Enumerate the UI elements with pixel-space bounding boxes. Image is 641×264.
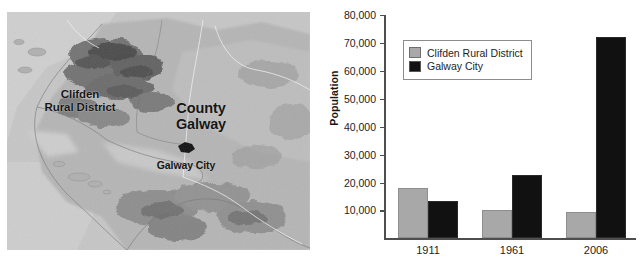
x-axis-line [384, 238, 636, 240]
bar-2006-galway [596, 37, 626, 238]
y-axis-tick-label: 30,000 [344, 149, 376, 161]
y-axis-tick-label: 70,000 [344, 37, 376, 49]
y-axis-tick-label: 40,000 [344, 121, 376, 133]
figure-root: Clifden Rural District County Galway Gal… [0, 0, 641, 264]
chart-legend: Clifden Rural District Galway City [403, 40, 532, 80]
y-axis-tick-label: 50,000 [344, 93, 376, 105]
bar-1961-galway [512, 175, 542, 238]
legend-item-galway-city: Galway City [409, 60, 523, 72]
legend-item-clifden-rural-district: Clifden Rural District [409, 47, 523, 59]
x-axis-label-2006: 2006 [584, 244, 608, 256]
population-bar-chart: Population 10,00020,00030,00040,00050,00… [320, 0, 641, 264]
map-label-county-galway: County Galway [155, 100, 247, 132]
x-axis-label-1911: 1911 [416, 244, 440, 256]
y-axis-tick-label: 60,000 [344, 65, 376, 77]
legend-label-clifden: Clifden Rural District [427, 47, 523, 59]
map-label-galway-city: Galway City [143, 160, 229, 172]
y-axis-tick [380, 43, 385, 44]
y-axis-tick [380, 210, 385, 211]
legend-swatch-icon-clifden [409, 47, 421, 58]
y-axis-tick [380, 127, 385, 128]
y-axis-tick [380, 183, 385, 184]
x-axis-label-1961: 1961 [500, 244, 524, 256]
y-axis-tick-label: 80,000 [344, 9, 376, 21]
y-axis-tick-label: 10,000 [344, 204, 376, 216]
map-label-clifden-rural-district: Clifden Rural District [15, 88, 145, 114]
bar-1911-galway [428, 201, 458, 239]
y-axis-tick [380, 71, 385, 72]
y-axis-tick [380, 99, 385, 100]
map-panel: Clifden Rural District County Galway Gal… [7, 12, 310, 250]
bar-1911-clifden [398, 188, 428, 238]
legend-swatch-icon-galway [409, 61, 421, 72]
y-axis-title: Population [328, 58, 340, 138]
bar-2006-clifden [566, 212, 596, 239]
y-axis-tick [380, 15, 385, 16]
y-axis-tick-label: 20,000 [344, 177, 376, 189]
y-axis-tick [380, 155, 385, 156]
bar-1961-clifden [482, 210, 512, 238]
legend-label-galway: Galway City [427, 60, 483, 72]
